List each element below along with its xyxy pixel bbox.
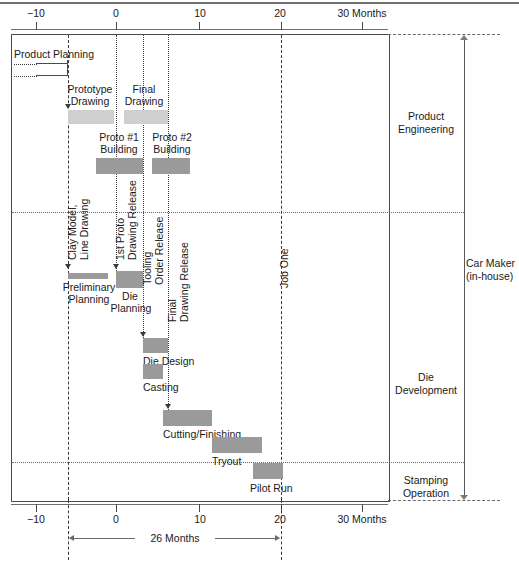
task-label-prototype-drawing-line2: Drawing — [62, 95, 118, 107]
task-bar-proto2-building — [152, 158, 190, 174]
milestone-arrow-preliminary-icon — [65, 264, 71, 269]
task-bar-die-planning — [116, 271, 143, 288]
bottom-tick-label-minus10: −10 — [16, 513, 56, 525]
top-tick-30 — [362, 22, 363, 30]
task-label-final-drawing-line2: Drawing — [118, 95, 170, 107]
car-maker-bracket-line — [464, 40, 465, 495]
task-bar-pilot-run — [253, 463, 283, 479]
section-label-stamping-line1: Stamping — [390, 474, 462, 487]
milestone-label-clay-model-line1: Clay Model, — [66, 205, 78, 260]
top-rule — [0, 2, 519, 4]
chart-root: −10 0 10 20 30 Months Product Planning P… — [0, 0, 519, 563]
milestone-label-final-release-line2: Drawing Release — [178, 242, 190, 322]
top-tick-label-10: 10 — [180, 7, 220, 19]
milestone-arrow-die-planning-icon — [113, 264, 119, 269]
milestone-label-first-proto-line2: Drawing Release — [126, 180, 138, 260]
task-label-product-planning: Product Planning — [14, 48, 94, 60]
task-label-casting: Casting — [143, 381, 179, 393]
task-bar-casting — [143, 364, 163, 379]
measure-guide-left — [68, 500, 69, 560]
bottom-tick-label-30: 30 Months — [325, 513, 399, 525]
measure-label: 26 Months — [135, 532, 215, 544]
task-label-proto2-line1: Proto #2 — [147, 131, 197, 143]
milestone-label-final-release-line1: Final — [166, 299, 178, 322]
measure-arrow-left-icon — [69, 535, 74, 541]
section-label-product-engineering-line1: Product — [390, 110, 462, 123]
measure-arrow-right-icon — [275, 535, 280, 541]
product-planning-leader-top — [14, 64, 37, 65]
milestone-label-clay-model-line2: Line Drawing — [78, 199, 90, 260]
top-tick-0 — [116, 22, 117, 30]
bottom-tick-10 — [199, 504, 200, 512]
bottom-tick-label-20: 20 — [260, 513, 300, 525]
top-tick-label-0: 0 — [96, 7, 136, 19]
task-bar-die-design — [143, 338, 168, 353]
bracket-top-dash — [388, 34, 500, 35]
bottom-tick-0 — [116, 504, 117, 512]
annotation-car-maker-line1: Car Maker — [466, 257, 519, 270]
section-label-die-development-line2: Development — [390, 384, 462, 397]
milestone-label-tooling-line2: Order Release — [153, 217, 165, 285]
task-label-die-planning-line1: Die — [110, 290, 150, 302]
bottom-tick-label-10: 10 — [180, 513, 220, 525]
task-bar-tryout — [212, 437, 262, 453]
section-label-die-development-line1: Die — [390, 371, 462, 384]
task-bar-prototype-drawing — [68, 110, 114, 124]
product-planning-line-top — [36, 63, 68, 64]
car-maker-arrow-up-icon — [460, 35, 468, 40]
milestone-arrow-cutting-icon — [165, 404, 171, 409]
task-label-proto1-line1: Proto #1 — [94, 131, 144, 143]
task-label-proto2-line2: Building — [147, 143, 197, 155]
milestone-label-job-one: Job One — [278, 248, 290, 288]
product-planning-bracket-right — [67, 60, 68, 76]
task-label-prototype-drawing-line1: Prototype — [62, 83, 118, 95]
bracket-bottom-dash — [388, 500, 500, 501]
task-label-die-planning-line2: Planning — [105, 302, 157, 314]
top-tick-label-minus10: −10 — [16, 7, 56, 19]
task-label-final-drawing-line1: Final — [118, 83, 170, 95]
product-planning-line-bottom — [36, 75, 68, 76]
task-bar-proto1-building — [96, 158, 143, 174]
task-label-pilot-run: Pilot Run — [250, 482, 293, 494]
bottom-tick-label-0: 0 — [96, 513, 136, 525]
task-bar-final-drawing — [124, 110, 168, 124]
task-label-proto1-line2: Building — [94, 143, 144, 155]
task-label-tryout: Tryout — [212, 455, 241, 467]
bottom-tick-30 — [362, 504, 363, 512]
bottom-tick-minus10 — [36, 504, 37, 512]
section-label-product-engineering-line2: Engineering — [390, 123, 462, 136]
milestone-arrow-die-design-icon — [140, 332, 146, 337]
top-tick-10 — [199, 22, 200, 30]
top-tick-label-20: 20 — [260, 7, 300, 19]
milestone-label-first-proto-line1: 1st Proto — [114, 218, 126, 260]
product-planning-leader-bottom — [14, 76, 37, 77]
section-label-stamping-line2: Operation — [390, 487, 462, 500]
task-bar-cutting-finishing — [163, 410, 212, 426]
top-tick-label-30: 30 Months — [325, 7, 399, 19]
top-tick-minus10 — [36, 22, 37, 30]
measure-guide-right — [281, 500, 282, 560]
annotation-car-maker-line2: (in-house) — [466, 270, 519, 283]
top-tick-20 — [281, 22, 282, 30]
task-bar-preliminary-planning — [68, 273, 108, 279]
